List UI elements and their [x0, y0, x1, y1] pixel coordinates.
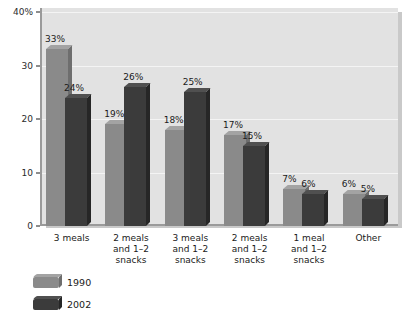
y-axis-line — [40, 8, 42, 226]
bar-value-label: 24% — [64, 83, 84, 93]
x-axis-label-line: snacks — [97, 255, 164, 266]
bar-value-label: 25% — [183, 77, 203, 87]
legend-label: 1990 — [67, 277, 91, 288]
y-axis-tick-mark — [36, 65, 40, 67]
x-axis-label-5: 1 mealand 1–2snacks — [275, 233, 342, 266]
x-axis-label-line: 2 meals — [216, 233, 283, 244]
x-axis-label-3: 3 mealsand 1–2snacks — [157, 233, 224, 266]
gridline — [42, 66, 398, 67]
bar-value-label: 26% — [123, 72, 143, 82]
bar-side-face — [206, 88, 210, 226]
legend-swatch-top — [33, 274, 63, 277]
bar-2002-2 — [124, 87, 146, 226]
bar-value-label: 7% — [282, 174, 296, 184]
x-axis-label-line: and 1–2 — [216, 244, 283, 255]
bar-top-face — [184, 88, 211, 92]
y-axis-tick-mark — [36, 172, 40, 174]
x-axis-label-line: and 1–2 — [97, 244, 164, 255]
bar-side-face — [146, 83, 150, 226]
bar-2002-3 — [184, 92, 206, 226]
bar-side-face — [324, 190, 328, 226]
gridline — [42, 119, 398, 120]
x-axis-label-4: 2 mealsand 1–2snacks — [216, 233, 283, 266]
x-axis-label-line: 1 meal — [275, 233, 342, 244]
y-axis-tick-label: 30 — [0, 61, 33, 71]
bar-value-label: 19% — [104, 109, 124, 119]
bar-side-face — [384, 195, 388, 226]
gridline — [42, 173, 398, 174]
legend-swatch-2002 — [33, 299, 59, 310]
legend-swatch-face — [33, 277, 59, 288]
bar-2002-1 — [65, 98, 87, 226]
legend-swatch-1990 — [33, 277, 59, 288]
x-axis-label-line: snacks — [216, 255, 283, 266]
x-axis-label-line: 2 meals — [97, 233, 164, 244]
gridline — [42, 12, 398, 13]
y-axis-tick-mark — [36, 11, 40, 13]
legend-swatch-top — [33, 296, 63, 299]
y-axis-tick-mark — [36, 225, 40, 227]
y-axis-tick-label: 40% — [0, 7, 33, 17]
y-axis-tick-label: 0 — [0, 221, 33, 231]
x-axis-label-line: snacks — [157, 255, 224, 266]
bar-front-face — [302, 194, 324, 226]
bar-front-face — [65, 98, 87, 226]
bar-value-label: 15% — [242, 131, 262, 141]
x-axis-label-6: Other — [335, 233, 402, 244]
bar-top-face — [243, 142, 270, 146]
bar-value-label: 18% — [164, 115, 184, 125]
legend-swatch-face — [33, 299, 59, 310]
bar-front-face — [243, 146, 265, 226]
bar-value-label: 6% — [301, 179, 315, 189]
bar-2002-4 — [243, 146, 265, 226]
bar-value-label: 17% — [223, 120, 243, 130]
x-axis-label-line: and 1–2 — [275, 244, 342, 255]
x-axis-label-2: 2 mealsand 1–2snacks — [97, 233, 164, 266]
bar-value-label: 5% — [361, 184, 375, 194]
bar-side-face — [265, 142, 269, 226]
legend-label: 2002 — [67, 299, 91, 310]
x-axis-label-line: 3 meals — [157, 233, 224, 244]
plot-area-shadow-right — [398, 12, 402, 228]
bar-front-face — [124, 87, 146, 226]
bar-2002-5 — [302, 194, 324, 226]
bar-top-face — [65, 94, 92, 98]
bar-front-face — [184, 92, 206, 226]
bar-front-face — [362, 199, 384, 226]
bar-top-face — [362, 195, 389, 199]
y-axis-tick-label: 20 — [0, 114, 33, 124]
bar-value-label: 33% — [45, 34, 65, 44]
x-axis-label-1: 3 meals — [38, 233, 105, 244]
x-axis-label-line: Other — [335, 233, 402, 244]
x-axis-label-line: snacks — [275, 255, 342, 266]
x-axis-label-line: and 1–2 — [157, 244, 224, 255]
bar-2002-6 — [362, 199, 384, 226]
y-axis-tick-label: 10 — [0, 168, 33, 178]
x-axis-label-line: 3 meals — [38, 233, 105, 244]
bar-side-face — [87, 94, 91, 226]
bar-chart: 010203040% 33%24%19%26%18%25%17%15%7%6%6… — [0, 0, 412, 320]
y-axis-tick-mark — [36, 118, 40, 120]
bar-value-label: 6% — [342, 179, 356, 189]
